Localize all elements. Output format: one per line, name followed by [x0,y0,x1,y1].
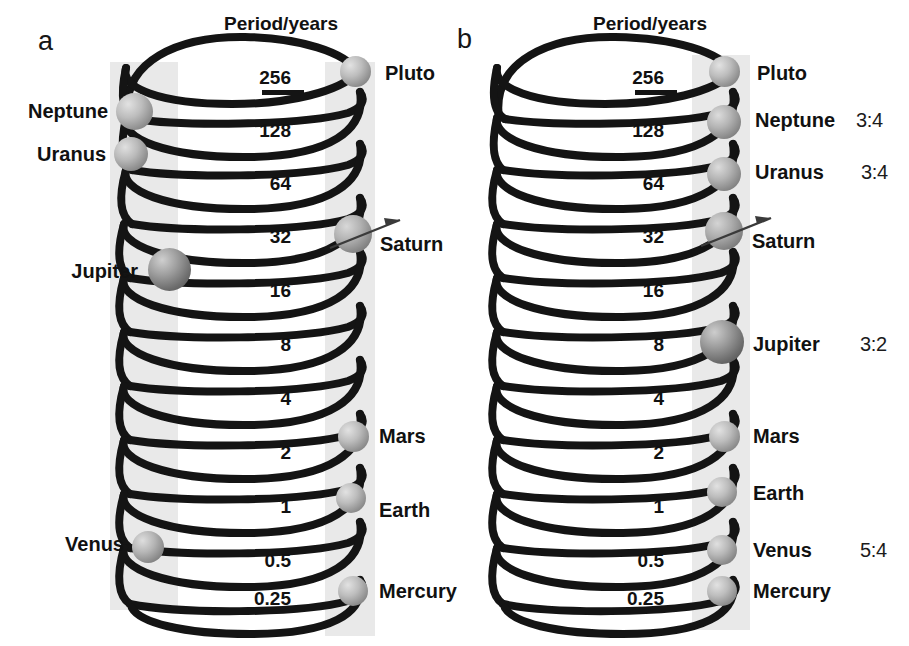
panel-b-helix [455,0,909,646]
planet-pluto-a [340,56,371,87]
panel-a-tick-32: 32 [243,227,291,246]
panel-b-tick-0.25: 0.25 [606,589,664,608]
panel-a-tick-16: 16 [243,281,291,300]
panel-a-tick-256: 256 [243,68,291,87]
panel-b-ratio-uranus: 3:4 [861,162,888,182]
panel-a-tick-4: 4 [243,389,291,408]
panel-b-label-mars: Mars [753,426,800,446]
planet-mars-a [338,421,369,452]
planet-earth-a [336,483,366,513]
panel-a-label-venus: Venus [0,534,124,554]
panel-b-tick-16: 16 [616,281,664,300]
planet-neptune-b [707,105,741,139]
panel-b-ratio-neptune: 3:4 [856,110,883,130]
planet-earth-b [707,477,737,507]
panel-b-ratio-jupiter: 3:2 [860,334,887,354]
panel-b-label-pluto: Pluto [757,63,807,83]
panel-b-label-uranus: Uranus [755,162,824,182]
panel-a-label-uranus: Uranus [0,144,106,164]
panel-a-tick-128: 128 [243,121,291,140]
panel-a-tick-0.25: 0.25 [233,589,291,608]
panel-b-tick-2: 2 [616,443,664,462]
planet-venus-a [132,531,164,563]
panel-a-tick-0.5: 0.5 [239,551,291,570]
panel-a-tick-64: 64 [243,174,291,193]
panel-b-label-neptune: Neptune [755,110,835,130]
panel-a-tick-8: 8 [243,335,291,354]
planetary-period-helix-figure: a Period/years [0,0,909,646]
planet-uranus-a [114,137,148,171]
panel-a-label-saturn: Saturn [380,234,443,254]
panel-b-label-saturn: Saturn [752,231,815,251]
panel-b-tick-0.5: 0.5 [612,551,664,570]
panel-b-tick-128: 128 [616,121,664,140]
panel-a-tick-1: 1 [243,497,291,516]
panel-b: b Period/years [455,0,909,646]
panel-b-tick-64: 64 [616,174,664,193]
panel-a-label-mercury: Mercury [379,581,457,601]
planet-venus-b [707,535,737,565]
planet-mars-b [709,421,740,452]
panel-a-label-jupiter: Jupiter [0,261,138,281]
panel-b-tick-1: 1 [616,497,664,516]
panel-b-label-jupiter: Jupiter [753,334,820,354]
panel-b-tick-4: 4 [616,389,664,408]
panel-b-tick-32: 32 [616,227,664,246]
panel-b-tick-8: 8 [616,335,664,354]
panel-b-label-earth: Earth [753,483,804,503]
planet-jupiter-a [148,248,191,291]
panel-a-tick-256-underline [262,90,304,95]
panel-a: a Period/years [0,0,455,646]
panel-a-tick-2: 2 [243,443,291,462]
panel-a-label-neptune: Neptune [0,101,108,121]
planet-mercury-a [338,576,368,606]
planet-mercury-b [707,576,737,606]
panel-a-label-mars: Mars [379,426,426,446]
planet-jupiter-b [700,320,744,364]
panel-b-label-mercury: Mercury [753,581,831,601]
panel-b-tick-256: 256 [616,68,664,87]
planet-neptune-a [116,93,153,130]
panel-a-label-pluto: Pluto [385,63,435,83]
planet-uranus-b [707,157,741,191]
planet-pluto-b [709,56,740,87]
panel-b-label-venus: Venus [753,540,812,560]
panel-a-label-earth: Earth [379,500,430,520]
panel-b-ratio-venus: 5:4 [860,540,887,560]
panel-b-tick-256-underline [635,90,677,95]
